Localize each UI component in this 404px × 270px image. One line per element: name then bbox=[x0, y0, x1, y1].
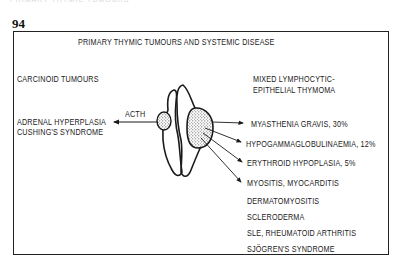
thymus-illustration bbox=[0, 0, 404, 270]
arrow-myositis bbox=[201, 138, 241, 182]
arrow-myasthenia bbox=[212, 122, 243, 123]
carcinoid-tumour-shape bbox=[157, 112, 171, 130]
arrow-erythroid bbox=[203, 133, 242, 162]
thymoma-shape bbox=[187, 108, 213, 148]
